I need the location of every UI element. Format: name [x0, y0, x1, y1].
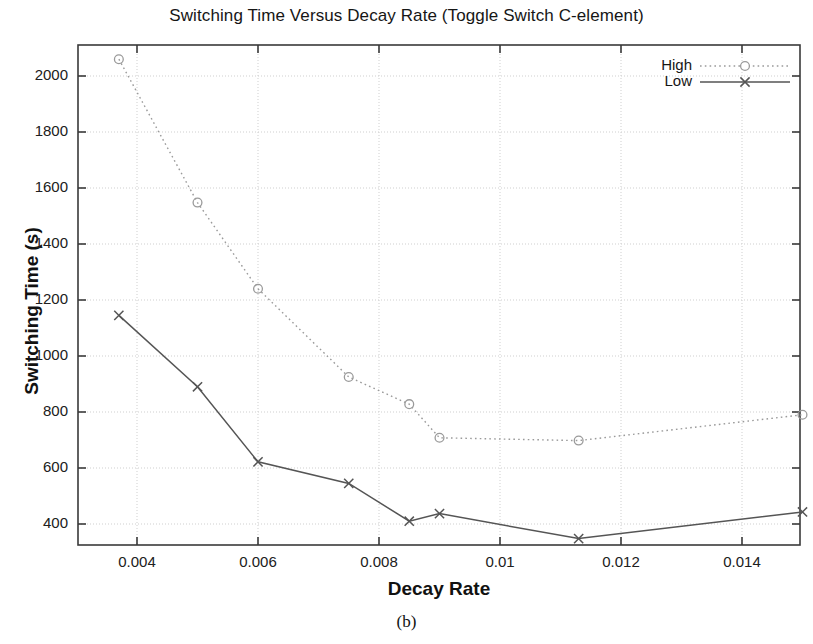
- x-tick-label: 0.012: [581, 553, 661, 570]
- y-tick-label: 800: [8, 402, 68, 419]
- y-tick-label: 400: [8, 514, 68, 531]
- legend-marker-high: [741, 62, 750, 71]
- plot-area: [0, 0, 813, 644]
- data-point-high: [114, 55, 123, 64]
- x-tick-label: 0.01: [460, 553, 540, 570]
- y-tick-label: 1600: [8, 178, 68, 195]
- y-tick-label: 1000: [8, 346, 68, 363]
- x-tick-label: 0.006: [218, 553, 298, 570]
- y-tick-label: 1200: [8, 290, 68, 307]
- series-line-high: [119, 59, 803, 440]
- plot-frame: [78, 45, 800, 545]
- data-point-low: [405, 517, 414, 526]
- x-tick-label: 0.008: [339, 553, 419, 570]
- y-tick-label: 1800: [8, 122, 68, 139]
- data-point-low: [114, 311, 123, 320]
- data-point-low: [344, 479, 353, 488]
- y-tick-label: 1400: [8, 234, 68, 251]
- data-point-low: [193, 382, 202, 391]
- legend-label-low: Low: [622, 72, 692, 89]
- x-tick-label: 0.004: [97, 553, 177, 570]
- y-tick-label: 2000: [8, 66, 68, 83]
- y-tick-label: 600: [8, 458, 68, 475]
- x-tick-label: 0.014: [702, 553, 782, 570]
- data-point-high: [344, 373, 353, 382]
- legend-label-high: High: [622, 56, 692, 73]
- figure-container: Switching Time Versus Decay Rate (Toggle…: [0, 0, 813, 644]
